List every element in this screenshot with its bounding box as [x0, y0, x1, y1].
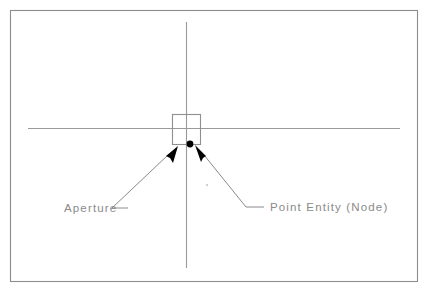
aperture-label: Aperture — [64, 202, 117, 214]
diagram-canvas: Aperture Point Entity (Node) — [0, 0, 428, 296]
point-entity-label: Point Entity (Node) — [270, 201, 388, 213]
point-entity-node-dot — [187, 141, 194, 148]
diagram-svg: Aperture Point Entity (Node) — [0, 0, 428, 296]
point-entity-leader-arrowhead — [195, 145, 206, 162]
aperture-leader-arrowhead — [166, 146, 178, 163]
aperture-leader-line — [112, 155, 168, 208]
scan-artifact-speck — [206, 184, 208, 186]
figure-border — [11, 11, 418, 282]
point-entity-leader-line — [204, 155, 264, 207]
